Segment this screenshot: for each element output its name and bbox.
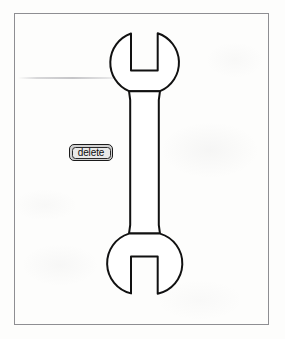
wrench-bottom-head-shape <box>107 234 182 294</box>
delete-button[interactable]: delete <box>69 144 113 161</box>
screenshot-canvas: delete <box>0 0 285 339</box>
wrench-top-head-shape <box>110 33 179 91</box>
wrench-shaft-shape <box>129 91 160 233</box>
wrench-diagram <box>0 0 285 339</box>
delete-button-label: delete <box>78 148 105 158</box>
